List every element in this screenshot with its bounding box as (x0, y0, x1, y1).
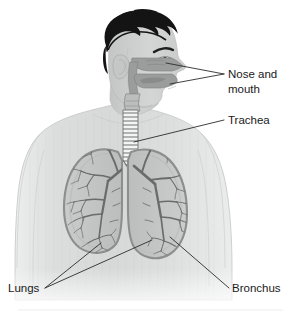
label-bronchus: Bronchus (232, 282, 281, 294)
label-nose-and-mouth-line2: mouth (228, 83, 260, 95)
label-lungs: Lungs (8, 282, 40, 294)
oral-cavity (134, 74, 177, 88)
larynx (125, 94, 141, 111)
label-nose-and-mouth-line1: Nose and (228, 68, 277, 80)
respiratory-system-diagram: Nose and mouth Trachea Lungs Bronchus (0, 0, 301, 317)
leader-mouth (170, 74, 224, 84)
label-nose-and-mouth: Nose and mouth (228, 68, 280, 95)
anatomy-illustration: Nose and mouth Trachea Lungs Bronchus (0, 0, 301, 317)
label-trachea: Trachea (228, 114, 270, 126)
